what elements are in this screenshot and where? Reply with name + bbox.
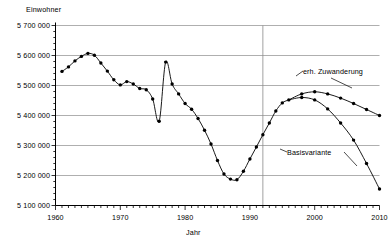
- data-point: [93, 54, 96, 57]
- data-point: [300, 96, 303, 99]
- data-point: [190, 108, 193, 111]
- data-point: [132, 82, 135, 85]
- data-point: [365, 108, 368, 111]
- data-point: [60, 70, 63, 73]
- data-point: [164, 60, 167, 63]
- data-point: [86, 52, 89, 55]
- data-point: [274, 109, 277, 112]
- data-point: [73, 59, 76, 62]
- data-point: [255, 145, 258, 148]
- data-point: [235, 178, 238, 181]
- data-point: [352, 102, 355, 105]
- data-point: [229, 177, 232, 180]
- data-point: [339, 96, 342, 99]
- data-point: [326, 107, 329, 110]
- population-line-chart: Einwohner Jahr 5 700 0005 600 0005 500 0…: [0, 0, 388, 243]
- data-point: [248, 157, 251, 160]
- plot-area: [0, 0, 388, 243]
- data-point: [339, 121, 342, 124]
- data-point: [125, 80, 128, 83]
- annotation-leader-line: [344, 152, 357, 166]
- data-point: [106, 69, 109, 72]
- data-point: [67, 65, 70, 68]
- data-point: [183, 102, 186, 105]
- data-point: [112, 78, 115, 81]
- data-point: [313, 98, 316, 101]
- data-point: [281, 101, 284, 104]
- data-point: [209, 142, 212, 145]
- data-point: [313, 90, 316, 93]
- data-point: [80, 55, 83, 58]
- data-point: [365, 162, 368, 165]
- data-point: [216, 159, 219, 162]
- data-point: [196, 117, 199, 120]
- data-point: [378, 187, 381, 190]
- data-point: [261, 133, 264, 136]
- data-point: [242, 170, 245, 173]
- data-point: [157, 120, 160, 123]
- data-point: [99, 61, 102, 64]
- series-line-historisch: [62, 53, 289, 180]
- data-point: [151, 97, 154, 100]
- data-point: [300, 92, 303, 95]
- data-point: [170, 82, 173, 85]
- data-point: [378, 114, 381, 117]
- annotation-leader-line: [280, 149, 287, 152]
- data-point: [352, 138, 355, 141]
- data-point: [138, 87, 141, 90]
- data-point: [222, 172, 225, 175]
- data-point: [268, 121, 271, 124]
- data-point: [145, 88, 148, 91]
- data-point: [177, 92, 180, 95]
- annotation-leader-line: [296, 71, 303, 76]
- data-point: [203, 129, 206, 132]
- data-point: [119, 83, 122, 86]
- data-point: [326, 92, 329, 95]
- annotation-leader-line: [331, 78, 352, 88]
